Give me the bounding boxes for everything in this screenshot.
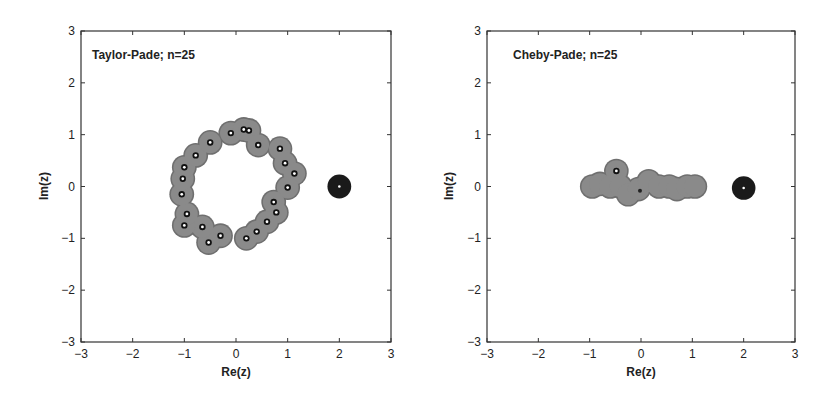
y-axis-label: Im(z)	[442, 172, 456, 200]
pseudo-pole-disks	[580, 159, 707, 207]
plot-cheby-pade: −3−2−10123−3−2−10123 Cheby-Pade; n=25 Re…	[442, 24, 799, 379]
svg-text:3: 3	[68, 24, 75, 38]
x-axis-label: Re(z)	[221, 365, 250, 379]
svg-text:−2: −2	[467, 283, 481, 297]
pole-marker	[327, 175, 351, 199]
svg-text:2: 2	[740, 347, 747, 361]
svg-text:0: 0	[233, 347, 240, 361]
y-axis-label: Im(z)	[37, 172, 51, 200]
svg-text:3: 3	[388, 347, 395, 361]
plot-taylor-pade: −3−2−10123−3−2−10123 Taylor-Pade; n=25 R…	[37, 24, 395, 379]
svg-text:−2: −2	[531, 347, 545, 361]
svg-text:1: 1	[689, 347, 696, 361]
svg-text:2: 2	[474, 76, 481, 90]
svg-text:−3: −3	[480, 347, 494, 361]
pseudo-pole-disks	[169, 117, 306, 255]
panel-title: Taylor-Pade; n=25	[92, 48, 195, 62]
svg-text:−1: −1	[467, 231, 481, 245]
svg-text:2: 2	[68, 76, 75, 90]
svg-text:3: 3	[474, 24, 481, 38]
svg-text:0: 0	[68, 180, 75, 194]
svg-text:2: 2	[336, 347, 343, 361]
svg-text:−1: −1	[61, 231, 75, 245]
svg-text:−3: −3	[74, 347, 88, 361]
svg-text:3: 3	[792, 347, 799, 361]
svg-text:−3: −3	[467, 335, 481, 349]
panel-title: Cheby-Pade; n=25	[513, 48, 618, 62]
svg-text:1: 1	[68, 128, 75, 142]
svg-text:0: 0	[638, 347, 645, 361]
svg-text:1: 1	[284, 347, 291, 361]
svg-text:−2: −2	[126, 347, 140, 361]
pole-marker	[732, 176, 756, 200]
svg-text:−3: −3	[61, 335, 75, 349]
svg-text:−2: −2	[61, 283, 75, 297]
figure: −3−2−10123−3−2−10123 Taylor-Pade; n=25 R…	[0, 0, 837, 409]
x-axis-label: Re(z)	[626, 365, 655, 379]
svg-text:0: 0	[474, 180, 481, 194]
svg-text:−1: −1	[177, 347, 191, 361]
svg-text:−1: −1	[583, 347, 597, 361]
svg-text:1: 1	[474, 128, 481, 142]
